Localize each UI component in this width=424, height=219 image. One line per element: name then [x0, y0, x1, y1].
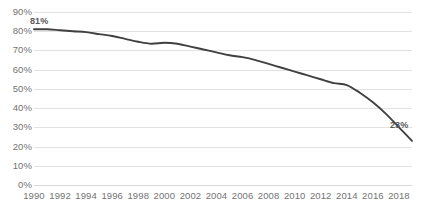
series-line-path [34, 29, 412, 141]
y-tick-label: 30% [0, 122, 32, 132]
y-tick-label: 60% [0, 65, 32, 75]
y-tick-label: 20% [0, 142, 32, 152]
y-tick-label: 70% [0, 45, 32, 55]
y-tick-label: 40% [0, 103, 32, 113]
y-tick-label: 0% [0, 180, 32, 190]
x-axis: 1990199219941996199820002002200420062008… [0, 190, 424, 206]
gridline [34, 185, 412, 186]
y-tick-label: 10% [0, 161, 32, 171]
x-tick-label: 2018 [379, 190, 419, 201]
data-point-label: 23% [390, 120, 408, 130]
plot-area [34, 12, 412, 185]
y-tick-label: 50% [0, 84, 32, 94]
series-line-svg [34, 12, 412, 185]
data-point-label: 81% [30, 16, 48, 26]
y-tick-label: 90% [0, 7, 32, 17]
line-chart: 90%80%70%60%50%40%30%20%10%0% 1990199219… [0, 0, 424, 219]
y-tick-label: 80% [0, 26, 32, 36]
y-axis: 90%80%70%60%50%40%30%20%10%0% [0, 0, 32, 219]
